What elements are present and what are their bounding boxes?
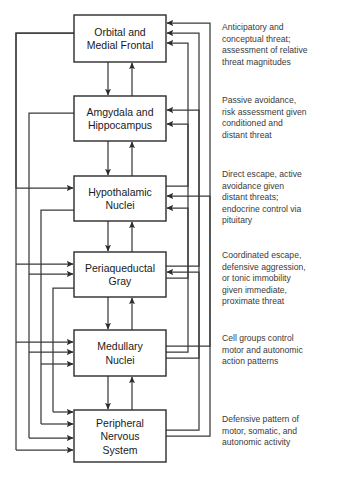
- annotation-layer: Anticipatory andconceptual threat;assess…: [222, 22, 308, 447]
- annotation-medullary: Cell groups controlmotor and autonomicac…: [222, 333, 303, 366]
- annotation-hypothalamic: Direct escape, activeavoidance givendist…: [222, 169, 302, 225]
- annotation-periaqueductal-line: proximate threat: [222, 296, 285, 306]
- node-label-orbital-medial-frontal: Medial Frontal: [87, 39, 154, 51]
- node-box-layer: Orbital andMedial FrontalAmgydala andHip…: [74, 15, 166, 462]
- conn-spine-amygdala-descending: [29, 113, 74, 438]
- annotation-periaqueductal: Coordinated escape,defensive aggression,…: [222, 250, 306, 306]
- annotation-peripheral: Defensive pattern ofmotor, somatic, anda…: [222, 414, 300, 447]
- node-hypothalamic-nuclei[interactable]: HypothalamicNuclei: [74, 176, 166, 221]
- annotation-hypothalamic-line: Direct escape, active: [222, 169, 302, 179]
- annotation-hypothalamic-line: endocrine control via: [222, 204, 302, 214]
- annotation-amygdala-line: distant threat: [222, 130, 272, 140]
- annotation-orbital: Anticipatory andconceptual threat;assess…: [222, 22, 308, 67]
- node-amygdala-hippocampus[interactable]: Amgydala andHippocampus: [74, 96, 166, 141]
- annotation-periaqueductal-line: given immediate,: [222, 285, 287, 295]
- node-label-amygdala-hippocampus: Hippocampus: [88, 119, 152, 131]
- connection-layer: [16, 23, 210, 450]
- diagram-canvas: Orbital andMedial FrontalAmgydala andHip…: [0, 0, 339, 479]
- annotation-medullary-line: motor and autonomic: [222, 345, 303, 355]
- conn-orbital-to-hypothalamic: [16, 33, 74, 188]
- conn-hypothalamic-to-orbital: [166, 43, 188, 186]
- node-label-hypothalamic-nuclei: Hypothalamic: [88, 186, 152, 198]
- node-peripheral-nervous-system[interactable]: PeripheralNervousSystem: [74, 410, 166, 462]
- annotation-amygdala-line: Passive avoidance,: [222, 95, 296, 105]
- annotation-orbital-line: conceptual threat;: [222, 34, 290, 44]
- annotation-periaqueductal-line: Coordinated escape,: [222, 250, 301, 260]
- node-medullary-nuclei[interactable]: MedullaryNuclei: [74, 330, 166, 376]
- annotation-amygdala-line: conditioned and: [222, 118, 283, 128]
- conn-periaqueductal-to-amygdala: [166, 124, 188, 278]
- annotation-periaqueductal-line: defensive aggression,: [222, 262, 306, 272]
- node-label-peripheral-nervous-system: Peripheral: [96, 417, 144, 429]
- annotation-hypothalamic-line: pituitary: [222, 215, 253, 225]
- conn-periaqueductal-to-orbital: [166, 33, 199, 266]
- conn-spine-orbital-descending: [16, 33, 74, 450]
- conn-spine-periaqueductal-descending: [53, 288, 74, 412]
- annotation-peripheral-line: autonomic activity: [222, 437, 291, 447]
- annotation-periaqueductal-line: or tonic immobility: [222, 273, 291, 283]
- node-label-peripheral-nervous-system: System: [102, 444, 137, 456]
- conn-medullary-to-amygdala: [166, 110, 199, 358]
- node-orbital-medial-frontal[interactable]: Orbital andMedial Frontal: [74, 15, 166, 62]
- node-label-periaqueductal-gray: Periaqueductal: [85, 262, 155, 274]
- conn-spine-hypothalamic-descending: [41, 210, 74, 424]
- annotation-hypothalamic-line: avoidance given: [222, 181, 284, 191]
- conn-peripheral-to-periaqueductal: [166, 272, 199, 430]
- defensive-hierarchy-figure: Orbital andMedial FrontalAmgydala andHip…: [0, 0, 339, 479]
- annotation-peripheral-line: Defensive pattern of: [222, 414, 300, 424]
- node-label-amygdala-hippocampus: Amgydala and: [86, 106, 153, 118]
- annotation-orbital-line: Anticipatory and: [222, 22, 284, 32]
- node-label-peripheral-nervous-system: Nervous: [100, 430, 139, 442]
- node-label-medullary-nuclei: Nuclei: [105, 354, 134, 366]
- annotation-medullary-line: action patterns: [222, 356, 278, 366]
- annotation-amygdala: Passive avoidance,risk assessment givenc…: [222, 95, 307, 140]
- annotation-hypothalamic-line: distant threats;: [222, 192, 278, 202]
- annotation-amygdala-line: risk assessment given: [222, 107, 307, 117]
- annotation-orbital-line: threat magnitudes: [222, 57, 291, 67]
- node-label-medullary-nuclei: Medullary: [97, 340, 143, 352]
- node-label-periaqueductal-gray: Gray: [109, 275, 133, 287]
- annotation-orbital-line: assessment of relative: [222, 45, 308, 55]
- conn-medullary-to-hypothalamic: [166, 208, 188, 352]
- annotation-peripheral-line: motor, somatic, and: [222, 426, 297, 436]
- annotation-medullary-line: Cell groups control: [222, 333, 294, 343]
- node-label-orbital-medial-frontal: Orbital and: [94, 26, 146, 38]
- node-label-hypothalamic-nuclei: Nuclei: [105, 199, 134, 211]
- node-periaqueductal-gray[interactable]: PeriaqueductalGray: [74, 252, 166, 297]
